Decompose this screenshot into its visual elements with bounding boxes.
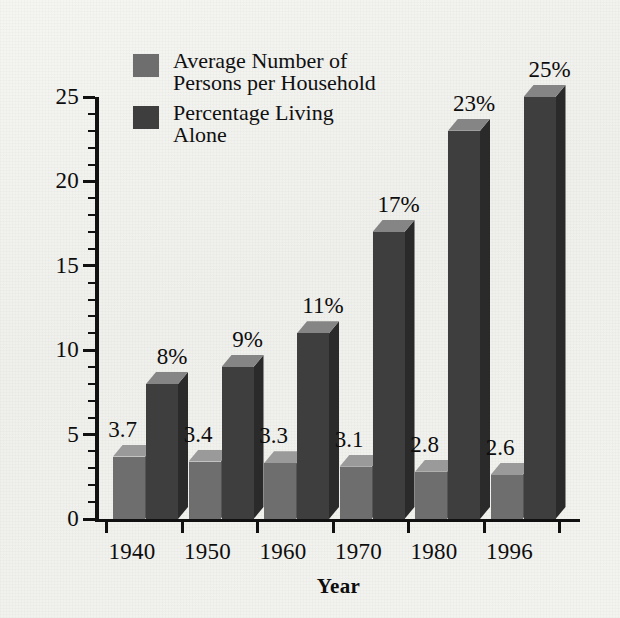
y-axis-minor-tick	[88, 282, 95, 284]
bar-value-label-persons-1950: 3.4	[149, 423, 213, 446]
legend-item-average-persons-per-household: Average Number of Persons per Household	[133, 50, 376, 95]
y-axis-tick-label: 15	[56, 254, 79, 277]
x-axis-tick-end	[558, 522, 561, 533]
y-axis-major-tick	[83, 264, 95, 267]
y-axis-major-tick	[83, 96, 95, 99]
x-axis-tick	[407, 522, 410, 533]
bar-value-label-persons-1996: 2.6	[451, 436, 515, 459]
y-axis-minor-tick	[88, 164, 95, 166]
y-axis-minor-tick	[88, 467, 95, 469]
y-axis-tick-label: 20	[56, 169, 79, 192]
y-axis-minor-tick	[88, 484, 95, 486]
bar-front-face	[297, 333, 329, 519]
y-axis-tick-label: 25	[56, 85, 79, 108]
x-axis-tick	[483, 522, 486, 533]
x-axis-title: Year	[97, 574, 580, 599]
x-axis-tick	[256, 522, 259, 533]
y-axis-minor-tick	[88, 383, 95, 385]
y-axis-major-tick	[83, 349, 95, 352]
bar-value-label-percentage-1960: 11%	[291, 294, 355, 317]
y-axis-minor-tick	[88, 130, 95, 132]
y-axis-minor-tick	[88, 501, 95, 503]
bar-value-label-percentage-1970: 17%	[367, 193, 431, 216]
y-axis-tick-label: 0	[67, 507, 79, 530]
bar-value-label-percentage-1996: 25%	[518, 58, 582, 81]
bar-value-label-persons-1960: 3.3	[224, 424, 288, 447]
bar-side-face	[556, 85, 566, 519]
bar-front-face	[264, 463, 296, 519]
y-axis-minor-tick	[88, 366, 95, 368]
bar-side-face	[329, 321, 339, 519]
chart-figure: 05101520253.78%3.49%3.311%3.117%2.823%2.…	[0, 0, 620, 618]
x-axis-tick-label: 1980	[401, 540, 467, 563]
y-axis-minor-tick	[88, 299, 95, 301]
bar-percentage-1970	[373, 220, 415, 519]
y-axis-major-tick	[83, 518, 95, 521]
y-axis-minor-tick	[88, 315, 95, 317]
y-axis-minor-tick	[88, 197, 95, 199]
bar-front-face	[448, 131, 480, 519]
y-axis-minor-tick	[88, 450, 95, 452]
y-axis-tick-label: 10	[56, 338, 79, 361]
y-axis-minor-tick	[88, 332, 95, 334]
legend-swatch-average-persons-per-household	[133, 54, 159, 77]
bar-front-face	[113, 457, 145, 519]
x-axis-tick	[332, 522, 335, 533]
legend-swatch-percentage-living-alone	[133, 106, 159, 129]
legend-label-average-persons-per-household: Average Number of Persons per Household	[173, 50, 376, 95]
bar-value-label-percentage-1940: 8%	[140, 345, 204, 368]
x-axis-tick-label: 1960	[250, 540, 316, 563]
bar-value-label-persons-1940: 3.7	[73, 418, 137, 441]
bar-front-face	[373, 232, 405, 519]
y-axis-line	[95, 97, 99, 522]
bar-side-face	[405, 220, 415, 519]
bar-value-label-persons-1970: 3.1	[300, 428, 364, 451]
x-axis-tick-label: 1996	[477, 540, 543, 563]
y-axis-minor-tick	[88, 400, 95, 402]
bar-front-face	[415, 472, 447, 519]
x-axis-tick-label: 1940	[99, 540, 165, 563]
bar-value-label-percentage-1950: 9%	[216, 328, 280, 351]
x-axis-tick	[181, 522, 184, 533]
y-axis-minor-tick	[88, 214, 95, 216]
y-axis-minor-tick	[88, 231, 95, 233]
x-axis-tick-label: 1970	[326, 540, 392, 563]
y-axis-minor-tick	[88, 113, 95, 115]
x-axis-line	[95, 519, 580, 522]
bar-percentage-1996	[524, 85, 566, 519]
bar-value-label-percentage-1980: 23%	[442, 92, 506, 115]
bar-front-face	[491, 475, 523, 519]
bar-front-face	[146, 384, 178, 519]
bar-percentage-1960	[297, 321, 339, 519]
bar-front-face	[340, 467, 372, 519]
x-axis-tick-label: 1950	[175, 540, 241, 563]
x-axis-tick	[105, 522, 108, 533]
bar-value-label-persons-1980: 2.8	[375, 433, 439, 456]
y-axis-minor-tick	[88, 147, 95, 149]
y-axis-major-tick	[83, 180, 95, 183]
chart-legend: Average Number of Persons per Household …	[133, 50, 376, 154]
legend-item-percentage-living-alone: Percentage Living Alone	[133, 102, 376, 147]
bar-front-face	[189, 462, 221, 519]
bar-front-face	[524, 97, 556, 519]
y-axis-minor-tick	[88, 248, 95, 250]
legend-label-percentage-living-alone: Percentage Living Alone	[173, 102, 334, 147]
